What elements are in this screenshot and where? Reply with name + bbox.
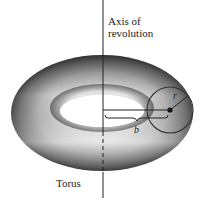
torus-hole	[60, 95, 144, 127]
axis-label: Axis of revolution	[108, 15, 153, 39]
axis-label-line1: Axis of	[108, 15, 153, 27]
axis-label-line2: revolution	[108, 27, 153, 39]
torus-diagram	[0, 0, 206, 207]
r-label: r	[173, 90, 177, 102]
torus-label: Torus	[56, 177, 81, 189]
b-label: b	[134, 124, 139, 136]
